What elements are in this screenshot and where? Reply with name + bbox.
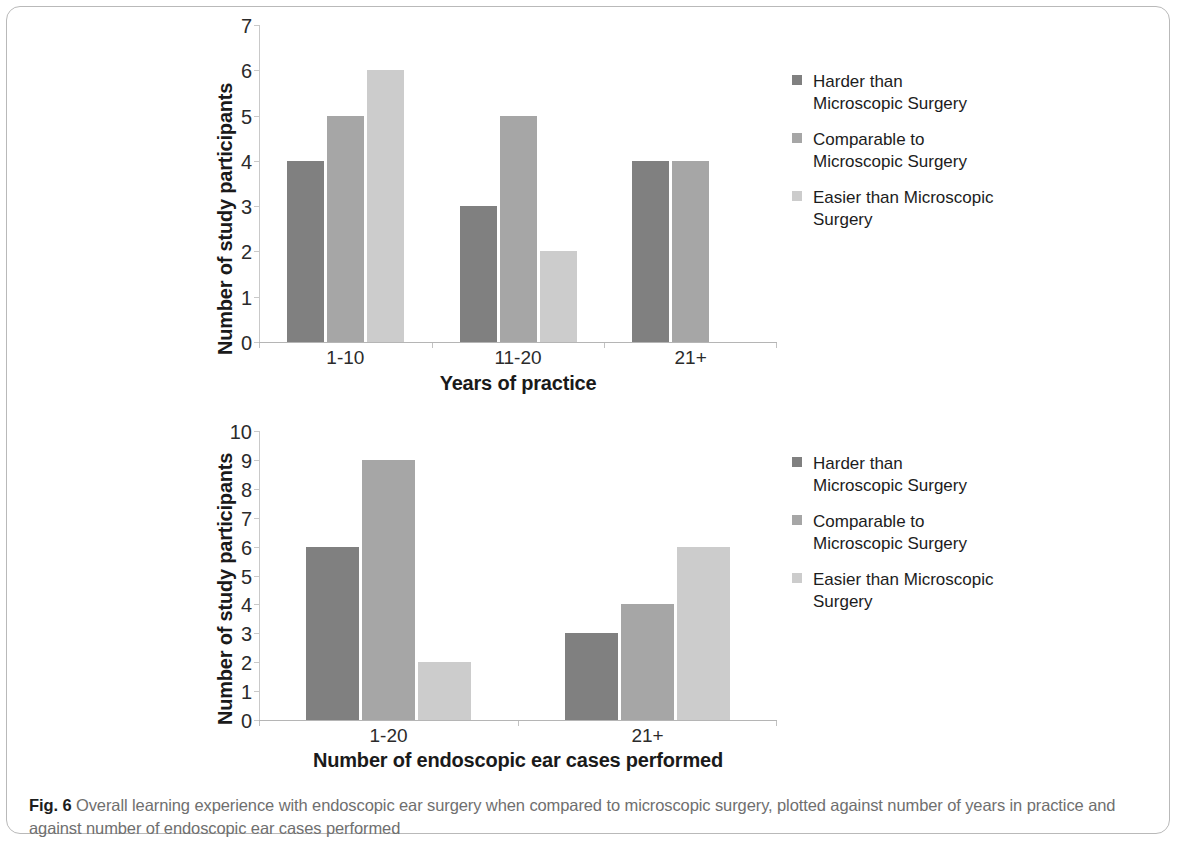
legend-label-line2: Surgery (813, 591, 1042, 613)
legend-item[interactable]: Comparable toMicroscopic Surgery (792, 129, 1042, 174)
y-tick-mark (254, 70, 259, 71)
y-tick-label: 0 (241, 333, 252, 353)
legend-label-line1: Easier than Microscopic (813, 187, 1042, 209)
bar (327, 116, 364, 342)
bar (540, 251, 577, 342)
y-tick-mark (254, 25, 259, 26)
figure-frame: Number of study participants 01234567 1-… (6, 6, 1170, 834)
y-tick-mark (254, 251, 259, 252)
legend-item[interactable]: Harder thanMicroscopic Surgery (792, 453, 1042, 498)
legend-label-line2: Microscopic Surgery (813, 93, 1042, 115)
y-tick-mark (254, 460, 259, 461)
bar (632, 161, 669, 342)
y-tick-mark (254, 547, 259, 548)
legend-item[interactable]: Easier than MicroscopicSurgery (792, 569, 1042, 614)
y-tick-label: 7 (241, 509, 252, 529)
chart-years-of-practice: Number of study participants 01234567 1-… (7, 7, 1171, 407)
y-tick-label: 1 (241, 288, 252, 308)
y-tick-label: 6 (241, 538, 252, 558)
figure-number: Fig. 6 (29, 796, 72, 814)
y-tick-label: 8 (241, 480, 252, 500)
y-tick-labels-top: 01234567 (218, 7, 252, 347)
plot-area-top (259, 25, 777, 343)
legend-label-line2: Surgery (813, 209, 1042, 231)
legend-label-line2: Microscopic Surgery (813, 475, 1042, 497)
legend-label-line1: Comparable to (813, 129, 1042, 151)
legend-bottom: Harder thanMicroscopic SurgeryComparable… (792, 453, 1042, 627)
x-category-label: 11-20 (432, 347, 605, 369)
y-tick-mark (254, 604, 259, 605)
y-tick-mark (254, 691, 259, 692)
y-tick-label: 2 (241, 242, 252, 262)
y-tick-label: 3 (241, 624, 252, 644)
x-category-label: 21+ (518, 725, 777, 747)
y-tick-mark (254, 431, 259, 432)
legend-label-line1: Harder than (813, 71, 1042, 93)
y-tick-mark (254, 116, 259, 117)
y-axis-line-bottom (259, 431, 260, 721)
bar (565, 633, 618, 720)
y-tick-mark (254, 161, 259, 162)
plot-area-bottom (259, 431, 777, 721)
x-category-label: 1-20 (259, 725, 518, 747)
y-tick-mark (254, 297, 259, 298)
legend-swatch-icon (792, 75, 802, 85)
bar (306, 547, 359, 720)
bar (418, 662, 471, 720)
x-axis-title-bottom: Number of endoscopic ear cases performed (259, 749, 777, 772)
x-axis-title-top: Years of practice (259, 372, 777, 395)
legend-label-line2: Microscopic Surgery (813, 533, 1042, 555)
legend-swatch-icon (792, 573, 802, 583)
legend-label-line1: Comparable to (813, 511, 1042, 533)
y-tick-label: 2 (241, 653, 252, 673)
y-tick-label: 4 (241, 152, 252, 172)
y-tick-label: 5 (241, 567, 252, 587)
y-tick-mark (254, 489, 259, 490)
bar (500, 116, 537, 342)
bar (672, 161, 709, 342)
y-tick-labels-bottom: 012345678910 (218, 419, 252, 719)
y-tick-mark (254, 518, 259, 519)
y-tick-label: 5 (241, 107, 252, 127)
y-tick-mark (254, 576, 259, 577)
bar (362, 460, 415, 720)
legend-item[interactable]: Comparable toMicroscopic Surgery (792, 511, 1042, 556)
x-category-label: 21+ (604, 347, 777, 369)
legend-swatch-icon (792, 515, 802, 525)
legend-label-line1: Easier than Microscopic (813, 569, 1042, 591)
y-tick-mark (254, 206, 259, 207)
y-tick-label: 10 (230, 422, 252, 442)
figure-caption-text: Overall learning experience with endosco… (29, 796, 1115, 837)
bar (677, 547, 730, 720)
y-tick-mark (254, 662, 259, 663)
legend-item[interactable]: Easier than MicroscopicSurgery (792, 187, 1042, 232)
y-tick-label: 0 (241, 711, 252, 731)
legend-swatch-icon (792, 457, 802, 467)
chart-endoscopic-cases: Number of study participants 01234567891… (7, 419, 1171, 779)
y-tick-label: 7 (241, 16, 252, 36)
legend-label-line2: Microscopic Surgery (813, 151, 1042, 173)
bar (287, 161, 324, 342)
bar (367, 70, 404, 342)
legend-top: Harder thanMicroscopic SurgeryComparable… (792, 71, 1042, 245)
y-tick-mark (254, 633, 259, 634)
y-axis-line-top (259, 25, 260, 343)
y-tick-label: 9 (241, 451, 252, 471)
legend-label-line1: Harder than (813, 453, 1042, 475)
figure-caption: Fig. 6 Overall learning experience with … (29, 794, 1149, 841)
bar (621, 604, 674, 720)
y-tick-label: 6 (241, 61, 252, 81)
bar (460, 206, 497, 342)
y-tick-label: 4 (241, 595, 252, 615)
legend-item[interactable]: Harder thanMicroscopic Surgery (792, 71, 1042, 116)
legend-swatch-icon (792, 191, 802, 201)
x-category-label: 1-10 (259, 347, 432, 369)
y-tick-label: 1 (241, 682, 252, 702)
legend-swatch-icon (792, 133, 802, 143)
x-axis-line-top (259, 342, 777, 343)
y-tick-label: 3 (241, 197, 252, 217)
